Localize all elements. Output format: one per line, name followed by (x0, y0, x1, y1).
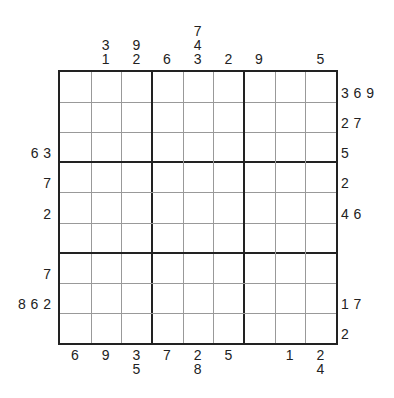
grid-cell[interactable] (152, 102, 183, 132)
grid-cell[interactable] (152, 313, 183, 343)
top-clue: 3 1 (91, 38, 122, 66)
grid-cell[interactable] (305, 223, 336, 253)
grid-cell[interactable] (275, 102, 306, 132)
grid-cell[interactable] (152, 192, 183, 222)
grid-cell[interactable] (183, 132, 214, 162)
grid-cell[interactable] (183, 313, 214, 343)
grid-cell[interactable] (60, 223, 91, 253)
grid-cell[interactable] (60, 102, 91, 132)
grid-cell[interactable] (244, 72, 275, 102)
grid-cell[interactable] (213, 162, 244, 192)
grid-cell[interactable] (275, 192, 306, 222)
grid-cell[interactable] (305, 313, 336, 343)
grid-cell[interactable] (213, 313, 244, 343)
grid-cell[interactable] (60, 192, 91, 222)
grid-cell[interactable] (244, 162, 275, 192)
grid-cell[interactable] (60, 132, 91, 162)
grid-cell[interactable] (244, 132, 275, 162)
grid-cell[interactable] (91, 283, 122, 313)
top-clue: 7 4 3 (183, 24, 214, 66)
grid-cell[interactable] (244, 283, 275, 313)
grid-cell[interactable] (244, 313, 275, 343)
grid-cell[interactable] (121, 72, 152, 102)
grid-cell[interactable] (183, 162, 214, 192)
bottom-clue: 9 (91, 348, 122, 362)
top-clue: 9 2 (121, 38, 152, 66)
bottom-clue: 5 (213, 348, 244, 362)
grid-cell[interactable] (121, 253, 152, 283)
grid-cell[interactable] (275, 162, 306, 192)
grid-cell[interactable] (244, 102, 275, 132)
grid-cell[interactable] (305, 72, 336, 102)
grid-cell[interactable] (183, 223, 214, 253)
bottom-clue: 1 (275, 348, 306, 362)
grid-cell[interactable] (152, 132, 183, 162)
grid-cell[interactable] (305, 253, 336, 283)
grid-cell[interactable] (60, 253, 91, 283)
grid-cell[interactable] (121, 162, 152, 192)
grid-cell[interactable] (121, 223, 152, 253)
grid-cell[interactable] (91, 192, 122, 222)
grid-cell[interactable] (152, 283, 183, 313)
grid-cell[interactable] (60, 283, 91, 313)
left-clue: 7 (2, 267, 52, 281)
grid-cell[interactable] (60, 313, 91, 343)
grid-cell[interactable] (275, 253, 306, 283)
grid-cell[interactable] (121, 132, 152, 162)
grid-cell[interactable] (244, 223, 275, 253)
right-clue: 3 6 9 (341, 86, 391, 100)
bottom-clue: 2 4 (305, 348, 336, 376)
grid-cell[interactable] (91, 72, 122, 102)
grid-cell[interactable] (91, 162, 122, 192)
grid-cell[interactable] (275, 132, 306, 162)
grid-cell[interactable] (121, 283, 152, 313)
top-clue: 6 (152, 52, 183, 66)
grid-cell[interactable] (305, 162, 336, 192)
left-clue: 6 3 (2, 146, 52, 160)
grid-cell[interactable] (152, 162, 183, 192)
grid-cell[interactable] (183, 283, 214, 313)
grid-cell[interactable] (60, 72, 91, 102)
grid-cell[interactable] (275, 313, 306, 343)
grid-cell[interactable] (275, 72, 306, 102)
grid-cell[interactable] (183, 192, 214, 222)
left-clue: 7 (2, 176, 52, 190)
bottom-clue: 2 8 (183, 348, 214, 376)
grid-cell[interactable] (183, 253, 214, 283)
grid-cell[interactable] (60, 162, 91, 192)
grid-cell[interactable] (213, 132, 244, 162)
top-clue: 2 (213, 52, 244, 66)
grid-cell[interactable] (183, 72, 214, 102)
grid-cell[interactable] (213, 72, 244, 102)
grid-cell[interactable] (91, 253, 122, 283)
sudoku-grid (58, 70, 338, 345)
grid-cell[interactable] (305, 102, 336, 132)
grid-cell[interactable] (91, 313, 122, 343)
left-clue: 8 6 2 (2, 297, 52, 311)
top-clue: 9 (244, 52, 275, 66)
grid-cell[interactable] (275, 283, 306, 313)
top-clue: 5 (305, 52, 336, 66)
grid-cell[interactable] (121, 313, 152, 343)
grid-cell[interactable] (213, 102, 244, 132)
grid-cell[interactable] (213, 283, 244, 313)
grid-cell[interactable] (152, 223, 183, 253)
grid-cell[interactable] (213, 253, 244, 283)
grid-cell[interactable] (244, 253, 275, 283)
grid-cell[interactable] (121, 192, 152, 222)
right-clue: 5 (341, 146, 391, 160)
grid-cell[interactable] (305, 283, 336, 313)
grid-cell[interactable] (305, 192, 336, 222)
grid-cell[interactable] (152, 253, 183, 283)
grid-cell[interactable] (213, 223, 244, 253)
grid-cell[interactable] (213, 192, 244, 222)
grid-cell[interactable] (305, 132, 336, 162)
grid-cell[interactable] (152, 72, 183, 102)
grid-cell[interactable] (244, 192, 275, 222)
grid-cell[interactable] (275, 223, 306, 253)
grid-cell[interactable] (183, 102, 214, 132)
grid-cell[interactable] (91, 132, 122, 162)
grid-cell[interactable] (91, 223, 122, 253)
grid-cell[interactable] (91, 102, 122, 132)
grid-cell[interactable] (121, 102, 152, 132)
